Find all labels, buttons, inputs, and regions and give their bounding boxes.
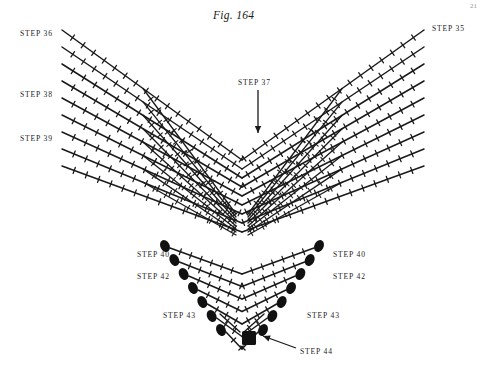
bottom-square-bead <box>242 331 256 345</box>
label-step-40-right: STEP 40 <box>333 250 366 259</box>
label-step-37: STEP 37 <box>238 78 271 87</box>
label-step-44: STEP 44 <box>300 347 333 356</box>
label-step-43-right: STEP 43 <box>307 311 340 320</box>
label-step-38: STEP 38 <box>20 90 53 99</box>
page-number: 21 <box>470 2 477 10</box>
label-step-42-left: STEP 42 <box>137 272 170 281</box>
fringe-bead <box>312 238 326 253</box>
label-step-42-right: STEP 42 <box>333 272 366 281</box>
step-44-leader-head <box>263 335 271 341</box>
upper-lattice-group <box>62 30 424 236</box>
figure-page: Fig. 164 21 STEP 36STEP 35STEP 38STEP 39… <box>0 0 484 374</box>
label-step-36: STEP 36 <box>20 29 53 38</box>
beadwork-diagram <box>0 0 484 374</box>
label-step-40-left: STEP 40 <box>137 250 170 259</box>
label-step-35: STEP 35 <box>432 24 465 33</box>
label-step-39: STEP 39 <box>20 134 53 143</box>
label-step-43-left: STEP 43 <box>163 311 196 320</box>
figure-title: Fig. 164 <box>213 9 254 21</box>
step-37-arrow-head <box>255 126 261 133</box>
